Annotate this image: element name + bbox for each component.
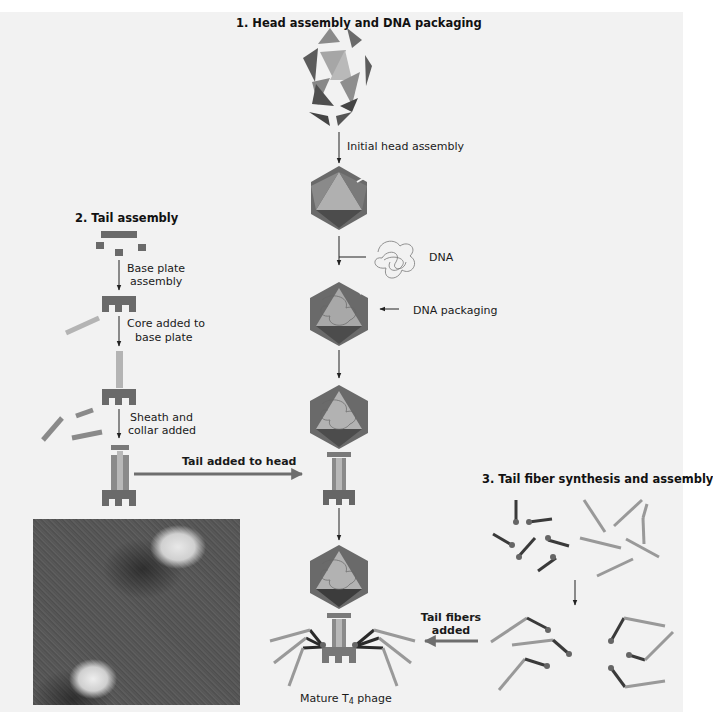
core-baseplate-icon (102, 351, 136, 405)
distal-fibers-icon (580, 500, 659, 576)
label-core-1: Core added to (127, 317, 205, 330)
label-dna-packaging: DNA packaging (413, 304, 497, 317)
core-rod-icon (66, 318, 99, 333)
mature-phage-icon (270, 545, 415, 686)
dna-packaging-head-icon (310, 282, 368, 346)
base-plate-parts-icon (96, 231, 146, 256)
label-core-2: base plate (135, 331, 193, 344)
step2-title: 2. Tail assembly (75, 211, 178, 225)
fiber-halves-icon (493, 500, 569, 571)
label-tail-fibers-2: added (420, 624, 482, 637)
step1-title: 1. Head assembly and DNA packaging (236, 16, 482, 30)
label-base-plate-2: assembly (130, 275, 182, 288)
head-subunits-icon (303, 28, 372, 126)
empty-head-icon (311, 166, 367, 230)
assembled-fibers-icon (491, 618, 673, 690)
complete-tail-icon (102, 445, 136, 506)
sheath-pieces-icon (43, 410, 102, 440)
step3-title: 3. Tail fiber synthesis and assembly (482, 472, 713, 486)
label-sheath-1: Sheath and (130, 411, 193, 424)
label-mature-phage: Mature T4 phage (300, 692, 392, 708)
electron-micrograph-image (33, 519, 240, 705)
label-base-plate-1: Base plate (127, 262, 185, 275)
label-initial-head-assembly: Initial head assembly (347, 140, 464, 153)
label-sheath-2: collar added (128, 424, 196, 437)
label-tail-fibers-1: Tail fibers (420, 611, 482, 624)
head-with-tail-icon (310, 385, 368, 505)
label-tail-added-to-head: Tail added to head (182, 455, 296, 468)
label-dna: DNA (429, 251, 453, 264)
base-plate-icon (102, 296, 136, 312)
dna-tangle-icon (375, 241, 415, 278)
